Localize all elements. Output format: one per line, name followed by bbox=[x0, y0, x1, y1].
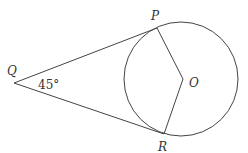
label-p: P bbox=[150, 9, 160, 23]
angle-label: 45° bbox=[38, 78, 59, 92]
geometry-diagram: Q P O R 45° bbox=[0, 0, 248, 153]
label-q: Q bbox=[7, 64, 17, 78]
radius-or bbox=[164, 79, 183, 134]
circle-o bbox=[124, 22, 238, 136]
label-r: R bbox=[157, 140, 167, 153]
radius-op bbox=[157, 28, 183, 79]
tangent-qp bbox=[14, 28, 157, 83]
tangent-qr bbox=[14, 83, 164, 134]
label-o: O bbox=[189, 76, 199, 90]
